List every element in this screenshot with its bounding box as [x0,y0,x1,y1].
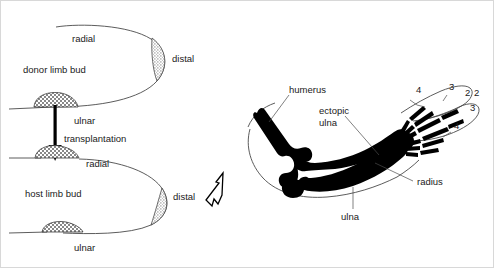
host-limb-bud-label: host limb bud [25,188,82,199]
transplantation-label: transplantation [64,133,126,144]
digit-label-d1: 4 [416,84,421,95]
humerus-leader-line [269,95,289,122]
digit-ray-lower-4 [406,152,418,157]
host-radial-label: radial [86,158,109,169]
donor-radial-label: radial [72,33,95,44]
host-ulnar-label: ulnar [74,242,95,253]
ectopic-ulna-label-line1: ectopic [319,105,349,116]
donor-graft-icon [34,93,78,107]
donor-aer-icon [152,38,165,81]
host-distal-label: distal [173,191,195,202]
digit-label-d3: 2 [465,87,470,98]
humerus-bone [253,108,312,188]
ectopic-ulna-leader-line [345,116,379,155]
digit-phalanx-lower-4 [420,148,439,155]
result-arrow-icon [206,173,223,206]
donor-distal-label: distal [172,53,194,64]
radius-label: radius [417,176,443,187]
humerus-label: humerus [289,84,326,95]
digit-label-d4: 2 [474,87,479,98]
figure-canvas: radial donor limb bud distal ulnar trans… [1,1,494,268]
digit-label-d5: 3 [470,102,475,113]
digit-label-d6: 4 [454,120,459,131]
host-aer-icon [151,188,167,225]
donor-limb-bud-label: donor limb bud [23,64,86,75]
digit-label-d2: 3 [449,81,454,92]
donor-ulnar-label: ulnar [74,115,95,126]
limb-skeleton-group [248,86,479,209]
host-graft-radial-icon [35,146,79,159]
ectopic-ulna-label-line2: ulna [319,117,338,128]
limb-transplantation-figure: radial donor limb bud distal ulnar trans… [0,0,494,268]
ulna-label: ulna [341,211,360,222]
digit-leader-3-upper [443,95,447,101]
host-graft-ulnar-icon [42,221,83,232]
